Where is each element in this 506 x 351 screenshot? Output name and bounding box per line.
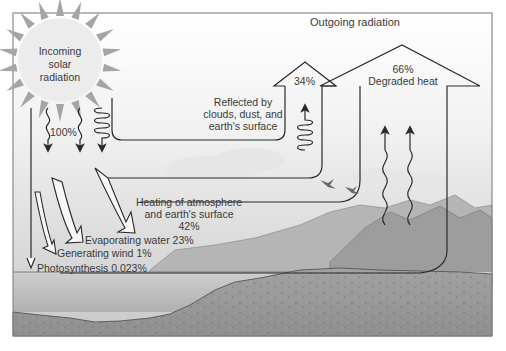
- photosynthesis-label: Photosynthesis 0.023%: [37, 262, 147, 274]
- incoming-percent: 100%: [50, 126, 77, 138]
- degraded-heat-label: 66% Degraded heat: [363, 63, 443, 87]
- energy-flow-diagram: Outgoing radiation Incoming solar radiat…: [0, 0, 506, 351]
- heating-label: Heating of atmosphere and earth's surfac…: [128, 196, 250, 232]
- sun-label: Incoming solar radiation: [34, 45, 86, 84]
- reflected-label: Reflected by clouds, dust, and earth's s…: [195, 96, 291, 132]
- wind-label: Generating wind 1%: [57, 247, 152, 259]
- reflected-percent: 34%: [294, 75, 315, 87]
- evaporating-label: Evaporating water 23%: [85, 234, 194, 246]
- outgoing-radiation-title: Outgoing radiation: [310, 16, 400, 28]
